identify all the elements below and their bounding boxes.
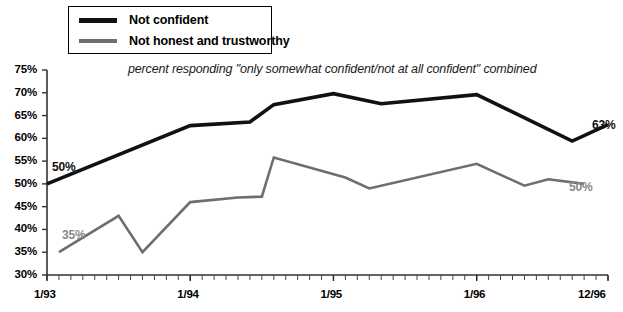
chart-legend: Not confident Not honest and trustworthy <box>68 6 272 54</box>
legend-label-not-honest: Not honest and trustworthy <box>129 34 290 48</box>
legend-swatch-not-confident <box>79 18 117 23</box>
end-label-not-confident: 63% <box>592 118 615 132</box>
series-line-1 <box>59 157 584 252</box>
legend-item-not-honest: Not honest and trustworthy <box>79 33 290 49</box>
start-label-not-honest: 35% <box>62 228 85 242</box>
axis-group <box>42 70 608 281</box>
series-line-0 <box>47 94 608 184</box>
series-group <box>47 94 608 253</box>
chart-container: Not confident Not honest and trustworthy… <box>0 0 623 312</box>
end-label-not-honest: 50% <box>569 180 592 194</box>
chart-subtitle: percent responding "only somewhat confid… <box>128 62 536 76</box>
start-label-not-confident: 50% <box>52 160 75 174</box>
legend-label-not-confident: Not confident <box>129 13 208 27</box>
legend-swatch-not-honest <box>79 39 117 43</box>
legend-item-not-confident: Not confident <box>79 12 208 28</box>
